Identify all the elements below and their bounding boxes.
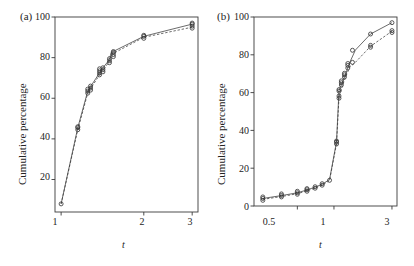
panel-b-plot [207, 0, 414, 266]
figure-container: (a) Cumulative percentage t 100 80 60 40… [0, 0, 414, 266]
panel-a: (a) Cumulative percentage t 100 80 60 40… [0, 0, 207, 266]
panel-b: (b) Cumulative percentage t 100 80 60 40… [207, 0, 414, 266]
panel-a-plot [0, 0, 207, 266]
